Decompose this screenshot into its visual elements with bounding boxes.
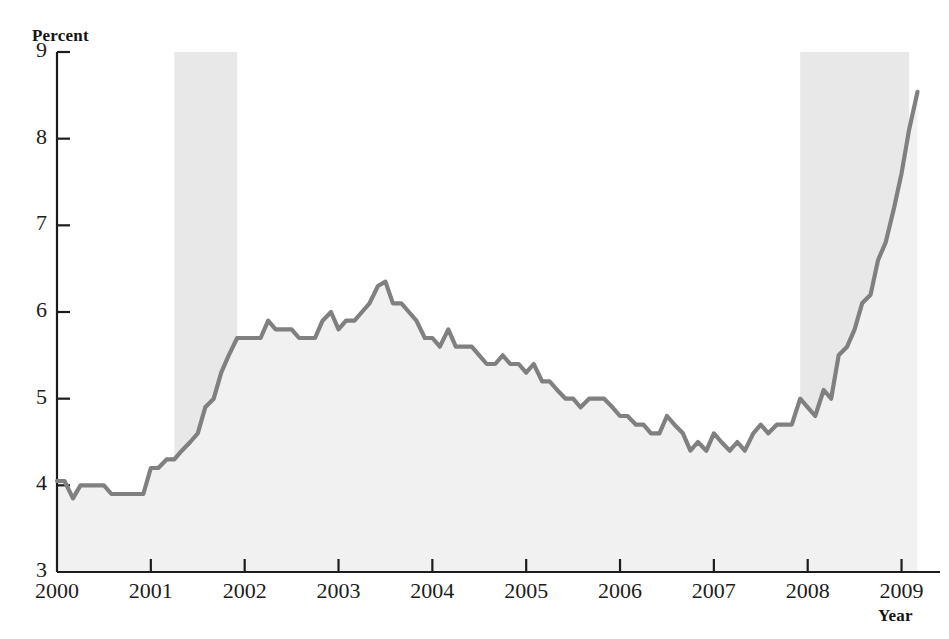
y-tick-label-9: 9 [21,37,47,63]
x-tick-label-2004: 2004 [387,578,477,604]
y-tick-label-6: 6 [21,297,47,323]
x-tick-label-2009: 2009 [857,578,947,604]
x-tick-label-2001: 2001 [106,578,196,604]
y-tick-label-5: 5 [21,384,47,410]
x-tick-label-2007: 2007 [669,578,759,604]
x-tick-label-2003: 2003 [294,578,384,604]
x-tick-label-2002: 2002 [200,578,290,604]
y-tick-label-7: 7 [21,210,47,236]
y-tick-label-8: 8 [21,124,47,150]
unemployment-rate-chart-figure: Percent Year 3456789 2000200120022003200… [0,0,949,639]
x-tick-label-2000: 2000 [12,578,102,604]
y-tick-label-4: 4 [21,470,47,496]
x-tick-label-2006: 2006 [575,578,665,604]
x-tick-label-2005: 2005 [481,578,571,604]
plot-canvas [0,0,949,639]
x-tick-label-2008: 2008 [763,578,853,604]
